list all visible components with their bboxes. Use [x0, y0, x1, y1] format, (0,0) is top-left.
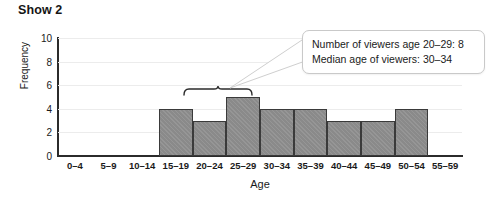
bar-40-44 [327, 121, 361, 156]
y-axis-tick-labels: 0246810 [0, 0, 52, 202]
stats-callout: Number of viewers age 20–29: 8 Median ag… [302, 30, 485, 74]
x-tick-label: 0–4 [67, 160, 83, 171]
y-tick-label: 0 [0, 151, 52, 162]
bar-45-49 [361, 121, 395, 156]
gridline [58, 85, 462, 86]
x-tick-label: 25–29 [230, 160, 256, 171]
x-axis-title: Age [58, 178, 462, 190]
callout-line-median-age: Median age of viewers: 30–34 [312, 52, 476, 67]
bar-35-39 [294, 109, 328, 156]
y-tick-label: 4 [0, 103, 52, 114]
bar-15-19 [159, 109, 193, 156]
x-tick-label: 40–44 [331, 160, 357, 171]
bracket-over-20-29-icon [183, 86, 253, 96]
x-tick-label: 5–9 [101, 160, 117, 171]
x-tick-label: 55–59 [432, 160, 458, 171]
x-tick-label: 30–34 [264, 160, 290, 171]
x-tick-label: 10–14 [129, 160, 155, 171]
bar-20-24 [193, 121, 227, 156]
y-tick-label: 10 [0, 33, 52, 44]
x-tick-label: 15–19 [163, 160, 189, 171]
callout-line-viewers-20-29: Number of viewers age 20–29: 8 [312, 37, 476, 52]
x-axis-tick-labels: 0–45–910–1415–1920–2425–2930–3435–3940–4… [58, 160, 462, 176]
y-tick-label: 8 [0, 56, 52, 67]
x-tick-label: 35–39 [297, 160, 323, 171]
bar-30-34 [260, 109, 294, 156]
x-tick-label: 45–49 [365, 160, 391, 171]
bar-25-29 [226, 97, 260, 156]
y-tick-label: 6 [0, 80, 52, 91]
x-tick-label: 20–24 [196, 160, 222, 171]
x-tick-label: 50–54 [398, 160, 424, 171]
bar-50-54 [395, 109, 429, 156]
y-tick-label: 2 [0, 127, 52, 138]
